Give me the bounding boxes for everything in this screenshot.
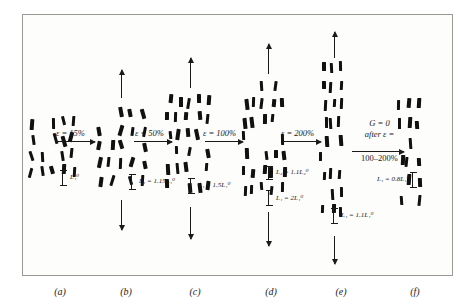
- load-arrow-b-up: [121, 70, 122, 98]
- panel-letter-a: (a): [45, 286, 75, 297]
- mesogen-rod: [397, 100, 401, 110]
- mesogen-rod: [175, 162, 179, 173]
- length-label-d-l1: L₁ = 2L₁⁰: [276, 194, 303, 202]
- mesogen-rod: [51, 118, 55, 129]
- figure-container: ε = 15% ε = 50% ε = 100% ε = 200% G = 0 …: [0, 0, 475, 308]
- strain-label-cd: ε = 100%: [203, 128, 236, 138]
- panel-letter-c: (c): [180, 286, 210, 297]
- strain-label-ab: ε = 15%: [56, 128, 85, 138]
- mesogen-rod: [197, 94, 201, 103]
- mesogen-rod: [408, 117, 412, 128]
- mesogen-rod: [333, 99, 337, 108]
- mesogen-rod: [340, 98, 344, 109]
- bracket-d-l1: [268, 190, 273, 206]
- transition-arrow-de: [283, 141, 321, 142]
- mesogen-rod: [406, 98, 411, 108]
- mesogen-rod: [325, 117, 329, 128]
- mesogen-rod: [339, 61, 342, 71]
- mesogen-rod: [321, 205, 324, 214]
- mesogen-rod: [242, 166, 245, 175]
- mesogen-rod: [260, 182, 264, 191]
- mesogen-rod: [400, 196, 404, 205]
- mesogen-rod: [415, 121, 420, 129]
- mesogen-rod: [142, 160, 147, 169]
- mesogen-rod: [322, 80, 326, 88]
- length-label-c: L₁ = 1.5L₁⁰: [198, 181, 230, 189]
- mesogen-rod: [322, 62, 326, 71]
- mesogen-rod: [418, 178, 422, 187]
- mesogen-rod: [183, 162, 188, 172]
- panel-letter-b: (b): [111, 286, 141, 297]
- load-arrow-d-up: [268, 44, 269, 74]
- load-arrow-d-down: [268, 212, 269, 246]
- panel-letter-d: (d): [256, 286, 286, 297]
- relaxation-note-line1: G = 0: [352, 118, 407, 129]
- relaxation-note: G = 0 after ε =: [352, 118, 407, 139]
- panel-letter-f: (f): [400, 286, 430, 297]
- mesogen-rod: [244, 186, 248, 196]
- bracket-f: [412, 172, 417, 188]
- transition-arrow-ef: [352, 151, 404, 152]
- strain-label-bc: ε = 50%: [135, 128, 164, 138]
- mesogen-rod: [416, 98, 420, 109]
- mesogen-rod: [328, 82, 332, 93]
- mesogen-rod: [271, 99, 275, 108]
- mesogen-rod: [118, 158, 121, 170]
- length-label-a: L₁⁰: [70, 173, 79, 181]
- mesogen-rod: [328, 167, 332, 178]
- mesogen-rod: [186, 128, 191, 137]
- mesogen-rod: [111, 139, 115, 149]
- load-arrow-e-down: [334, 236, 335, 264]
- panel-letter-e: (e): [326, 286, 356, 297]
- bracket-e: [333, 208, 338, 224]
- mesogen-rod: [338, 135, 343, 146]
- relaxation-note-line3-wrap: 100–200%: [352, 153, 407, 164]
- transition-arrow-cd: [205, 141, 243, 142]
- mesogen-rod: [250, 185, 253, 194]
- transition-arrow-bc: [134, 141, 172, 142]
- bracket-d-l2: [268, 166, 273, 180]
- transition-arrow-ab: [55, 141, 95, 142]
- mesogen-rod: [340, 187, 343, 197]
- bracket-b: [131, 174, 136, 190]
- figure-frame: [22, 14, 453, 276]
- mesogen-rod: [245, 148, 249, 160]
- length-label-b: L₁ = 1.15L₁⁰: [139, 177, 175, 185]
- mesogen-rod: [264, 151, 268, 160]
- relaxation-note-line3: 100–200%: [352, 153, 407, 164]
- load-arrow-b-down: [121, 200, 122, 230]
- strain-label-de: ε = 200%: [281, 128, 314, 138]
- length-label-f: L₁ = 0.8L₁⁰: [377, 175, 409, 183]
- mesogen-rod: [174, 112, 178, 123]
- length-label-d-l2: L₂ = 1.1L₂⁰: [276, 168, 308, 176]
- length-label-e: L₁ = 1.1L₁⁰: [341, 211, 373, 219]
- mesogen-rod: [274, 150, 278, 158]
- mesogen-rod: [259, 81, 263, 91]
- load-arrow-c-down: [190, 207, 191, 239]
- mesogen-rod: [179, 97, 183, 107]
- mesogen-rod: [324, 136, 328, 147]
- mesogen-rod: [165, 112, 169, 120]
- mesogen-rod: [281, 182, 284, 192]
- load-arrow-c-up: [190, 58, 191, 88]
- mesogen-rod: [417, 158, 421, 166]
- mesogen-rod: [280, 97, 284, 107]
- load-arrow-e-up: [334, 32, 335, 58]
- bracket-c: [190, 178, 195, 194]
- bracket-a: [62, 170, 67, 186]
- relaxation-note-line2: after ε =: [352, 129, 407, 140]
- mesogen-rod: [168, 93, 172, 102]
- mesogen-rod: [270, 114, 274, 122]
